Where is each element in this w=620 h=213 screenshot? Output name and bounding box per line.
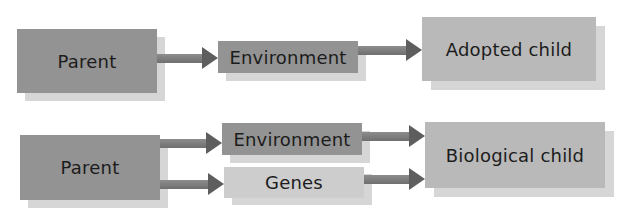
adopted-child-label: Adopted child xyxy=(446,39,572,60)
biological-child-box: Biological child xyxy=(425,122,605,188)
environment-box-top: Environment xyxy=(218,41,358,73)
arrow-parent-to-environment xyxy=(160,136,222,150)
parent-box-top: Parent xyxy=(17,29,157,93)
arrow-head-icon xyxy=(406,39,422,61)
arrow-environment-to-adopted-child xyxy=(358,43,422,57)
genes-label: Genes xyxy=(265,172,323,193)
arrow-parent-to-genes xyxy=(160,177,224,191)
arrow-parent-to-environment xyxy=(157,51,218,65)
environment-box-bottom: Environment xyxy=(222,123,362,155)
parent-label: Parent xyxy=(61,157,120,178)
parent-label: Parent xyxy=(58,51,117,72)
arrow-head-icon xyxy=(206,132,222,154)
environment-label: Environment xyxy=(233,129,350,150)
adopted-child-box: Adopted child xyxy=(422,17,596,81)
genes-box: Genes xyxy=(224,167,364,198)
arrow-head-icon xyxy=(208,173,224,195)
arrow-genes-to-biological-child xyxy=(364,172,425,186)
environment-label: Environment xyxy=(229,47,346,68)
arrow-environment-to-biological-child xyxy=(362,129,425,143)
arrow-head-icon xyxy=(409,125,425,147)
parent-box-bottom: Parent xyxy=(20,135,160,200)
arrow-head-icon xyxy=(202,47,218,69)
arrow-head-icon xyxy=(409,168,425,190)
biological-child-label: Biological child xyxy=(446,145,584,166)
